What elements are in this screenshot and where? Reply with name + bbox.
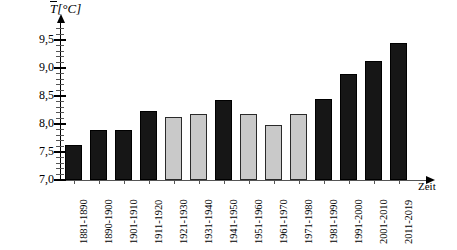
y-tick-minor: [56, 157, 64, 158]
y-tick-minor: [56, 56, 64, 57]
y-tick-minor: [56, 45, 64, 46]
bar: [290, 114, 307, 180]
x-category-label: 1991-2000: [353, 184, 364, 244]
y-tick-minor: [56, 73, 64, 74]
x-category-label: 1890-1900: [103, 184, 114, 244]
y-tick-minor: [56, 163, 64, 164]
x-category-label: 1911-1920: [153, 184, 164, 244]
x-tick: [324, 180, 325, 184]
x-tick: [99, 180, 100, 184]
y-tick-minor: [56, 107, 64, 108]
bar: [115, 130, 132, 180]
y-tick-major: [54, 123, 66, 124]
x-tick: [199, 180, 200, 184]
bar: [240, 114, 257, 180]
x-tick: [174, 180, 175, 184]
x-category-label: 2001-2010: [378, 184, 389, 244]
y-tick-label: 8,0: [20, 116, 54, 131]
x-category-label: 1931-1940: [203, 184, 214, 244]
y-tick-label: 7,0: [20, 172, 54, 187]
x-tick: [124, 180, 125, 184]
y-tick-minor: [56, 118, 64, 119]
x-category-label: 1971-1980: [303, 184, 314, 244]
y-tick-minor: [56, 174, 64, 175]
x-tick: [149, 180, 150, 184]
x-tick: [274, 180, 275, 184]
x-tick: [224, 180, 225, 184]
bar: [340, 74, 357, 180]
bar: [265, 125, 282, 180]
bar: [190, 114, 207, 180]
y-tick-minor: [56, 51, 64, 52]
y-tick-minor: [56, 112, 64, 113]
y-tick-major: [54, 95, 66, 96]
bar: [365, 61, 382, 180]
y-axis-label: T[°C]: [50, 1, 81, 17]
x-category-label: 1941-1950: [228, 184, 239, 244]
x-tick: [74, 180, 75, 184]
y-tick-minor: [56, 90, 64, 91]
bar: [165, 117, 182, 180]
bar: [390, 43, 407, 180]
x-category-label: 1901-1910: [128, 184, 139, 244]
y-tick-label: 8,5: [20, 88, 54, 103]
bar: [65, 145, 82, 180]
x-tick: [399, 180, 400, 184]
bar: [315, 99, 332, 180]
x-axis-label: Zeit: [418, 180, 436, 192]
y-tick-minor: [56, 101, 64, 102]
x-category-label: 1921-1930: [178, 184, 189, 244]
x-category-label: 1881-1890: [78, 184, 89, 244]
temperature-bar-chart: T[°C] 7,07,58,08,59,09,5 1881-18901890-1…: [0, 0, 457, 250]
y-tick-minor: [56, 62, 64, 63]
y-tick-major: [54, 39, 66, 40]
y-tick-minor: [56, 84, 64, 85]
bar: [140, 111, 157, 180]
y-tick-minor: [56, 135, 64, 136]
y-tick-label: 7,5: [20, 144, 54, 159]
y-tick-major: [54, 67, 66, 68]
x-tick: [299, 180, 300, 184]
x-category-label: 2011-2019: [403, 184, 414, 244]
y-tick-label: 9,5: [20, 32, 54, 47]
x-tick: [349, 180, 350, 184]
bar: [215, 100, 232, 180]
y-tick-label: 9,0: [20, 60, 54, 75]
y-tick-minor: [56, 28, 64, 29]
x-category-label: 1951-1960: [253, 184, 264, 244]
x-tick: [249, 180, 250, 184]
y-tick-minor: [56, 140, 64, 141]
y-tick-minor: [56, 129, 64, 130]
y-tick-minor: [56, 168, 64, 169]
x-tick: [374, 180, 375, 184]
x-category-label: 1961-1970: [278, 184, 289, 244]
y-tick-minor: [56, 34, 64, 35]
y-tick-minor: [56, 79, 64, 80]
bar: [90, 130, 107, 180]
x-category-label: 1981-1990: [328, 184, 339, 244]
y-tick-minor: [56, 146, 64, 147]
